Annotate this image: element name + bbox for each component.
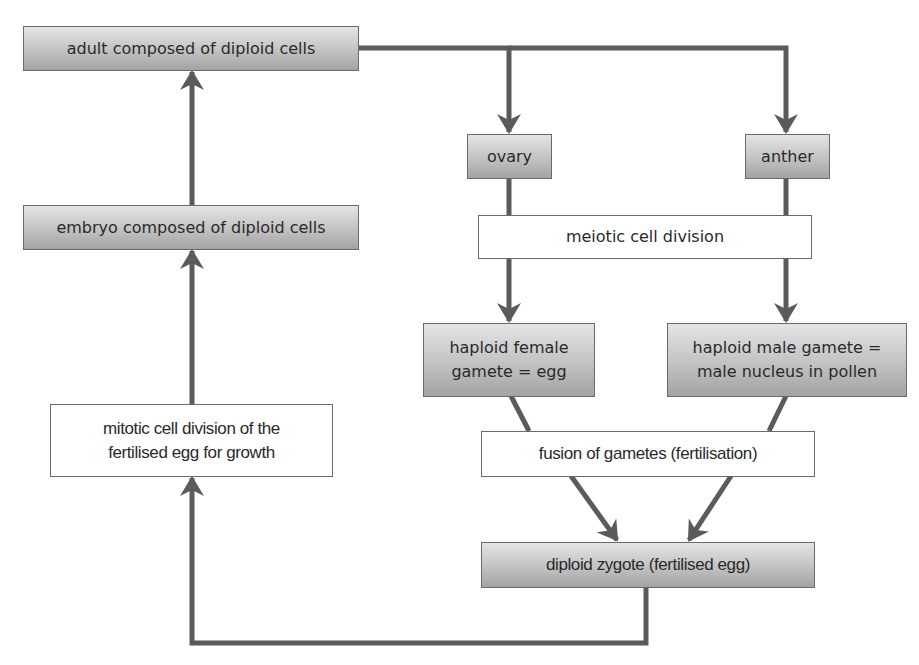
node-female-gamete-line2: gamete = egg bbox=[451, 360, 566, 384]
life-cycle-diagram: adult composed of diploid cells embryo c… bbox=[0, 0, 919, 665]
line-female-gamete-to-fusion bbox=[511, 396, 529, 431]
node-female-gamete: haploid female gamete = egg bbox=[423, 323, 595, 397]
node-male-gamete-line1: haploid male gamete = bbox=[693, 336, 882, 360]
node-mitosis-line1: mitotic cell division of the bbox=[103, 417, 280, 441]
node-fusion-label: fusion of gametes (fertilisation) bbox=[539, 442, 757, 466]
line-male-gamete-to-fusion bbox=[769, 396, 786, 431]
node-anther: anther bbox=[745, 134, 830, 179]
node-adult: adult composed of diploid cells bbox=[23, 26, 359, 71]
node-male-gamete: haploid male gamete = male nucleus in po… bbox=[667, 323, 907, 397]
node-zygote-label: diploid zygote (fertilised egg) bbox=[546, 553, 750, 577]
node-ovary-label: ovary bbox=[487, 145, 532, 169]
arrow-adult-to-ovary bbox=[358, 48, 509, 132]
node-male-gamete-line2: male nucleus in pollen bbox=[697, 360, 877, 384]
node-mitosis: mitotic cell division of the fertilised … bbox=[50, 404, 333, 477]
node-anther-label: anther bbox=[761, 145, 814, 169]
node-adult-label: adult composed of diploid cells bbox=[67, 37, 316, 61]
node-embryo: embryo composed of diploid cells bbox=[23, 205, 359, 250]
node-ovary: ovary bbox=[467, 134, 552, 179]
arrow-fusion-to-zygote-right bbox=[689, 476, 731, 540]
node-zygote: diploid zygote (fertilised egg) bbox=[481, 542, 815, 588]
node-meiosis: meiotic cell division bbox=[478, 215, 812, 259]
node-embryo-label: embryo composed of diploid cells bbox=[56, 216, 325, 240]
node-fusion: fusion of gametes (fertilisation) bbox=[481, 431, 815, 477]
node-female-gamete-line1: haploid female bbox=[449, 336, 568, 360]
arrow-adult-to-anther bbox=[509, 48, 786, 132]
node-mitosis-line2: fertilised egg for growth bbox=[108, 441, 275, 465]
node-meiosis-label: meiotic cell division bbox=[566, 225, 724, 249]
arrow-fusion-to-zygote-left bbox=[571, 476, 617, 540]
